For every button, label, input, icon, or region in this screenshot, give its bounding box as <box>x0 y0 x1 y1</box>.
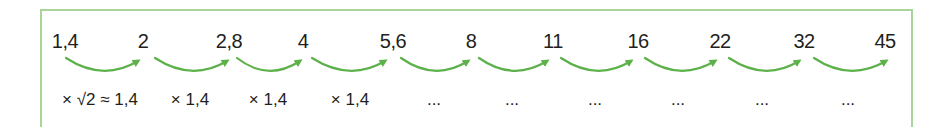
sequence-number: 2 <box>138 30 149 53</box>
sequence-number: 32 <box>793 30 814 53</box>
arrow-9 <box>729 58 799 71</box>
arrow-10 <box>814 58 886 71</box>
sequence-number: 8 <box>466 30 477 53</box>
sequence-number: 16 <box>627 30 648 53</box>
arrow-8 <box>645 58 715 71</box>
multiplier-label: ... <box>755 90 769 110</box>
sequence-number: 11 <box>543 30 563 53</box>
arrows-layer <box>0 0 950 127</box>
multiplier-label: ... <box>841 90 855 110</box>
arrow-7 <box>561 58 631 71</box>
sequence-number: 5,6 <box>380 30 406 53</box>
sequence-number: 2,8 <box>216 30 242 53</box>
arrow-4 <box>312 58 385 71</box>
multiplier-label: × √2 ≈ 1,4 <box>62 90 138 110</box>
sequence-number: 1,4 <box>52 30 78 53</box>
multiplier-label: × 1,4 <box>249 90 287 110</box>
multiplier-label: × 1,4 <box>171 90 209 110</box>
sequence-number: 45 <box>874 30 895 53</box>
sequence-number: 4 <box>298 30 309 53</box>
multiplier-label: ... <box>671 90 685 110</box>
multiplier-label: ... <box>588 90 602 110</box>
multiplier-label: × 1,4 <box>331 90 369 110</box>
multiplier-label: ... <box>505 90 519 110</box>
arrow-5 <box>401 58 468 71</box>
sequence-number: 22 <box>709 30 730 53</box>
multiplier-label: ... <box>427 90 441 110</box>
arrow-2 <box>155 58 227 71</box>
arrow-6 <box>479 58 547 71</box>
arrow-1 <box>66 58 138 71</box>
arrow-3 <box>237 58 300 71</box>
